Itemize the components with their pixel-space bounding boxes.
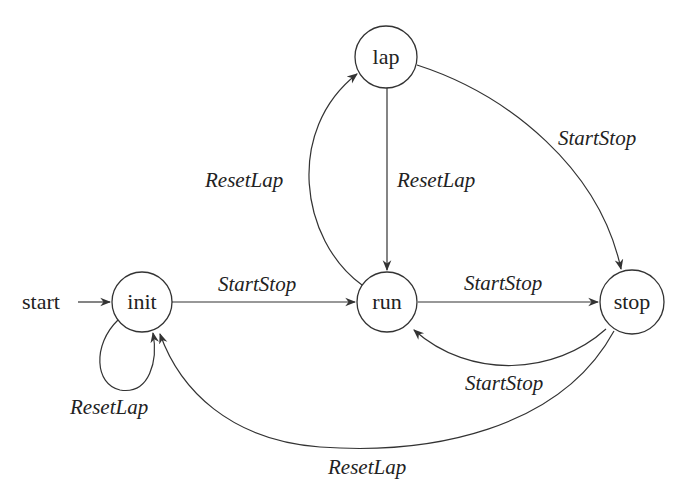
state-run-label: run (372, 289, 401, 314)
state-init-label: init (127, 289, 156, 314)
edge-label-lap-stop: StartStop (558, 126, 636, 150)
state-diagram: start ResetLap StartStop ResetLap ResetL… (0, 0, 692, 501)
edge-label-stop-run: StartStop (465, 371, 543, 395)
edge-label-init-run: StartStop (218, 272, 296, 296)
start-label: start (22, 289, 60, 314)
state-stop-label: stop (614, 289, 651, 314)
state-lap: lap (355, 26, 417, 88)
edge-lap-stop (417, 65, 621, 269)
edge-label-stop-init: ResetLap (327, 455, 406, 479)
edge-stop-run (414, 329, 606, 366)
state-run: run (357, 272, 417, 332)
edge-label-run-lap: ResetLap (204, 168, 283, 192)
edge-label-run-stop: StartStop (464, 271, 542, 295)
state-init: init (112, 272, 172, 332)
edge-label-lap-run: ResetLap (396, 168, 475, 192)
state-stop: stop (600, 270, 664, 334)
edge-label-init-init: ResetLap (69, 395, 148, 419)
edge-stop-init (160, 331, 614, 448)
edge-run-lap (309, 74, 362, 285)
state-lap-label: lap (373, 44, 400, 69)
